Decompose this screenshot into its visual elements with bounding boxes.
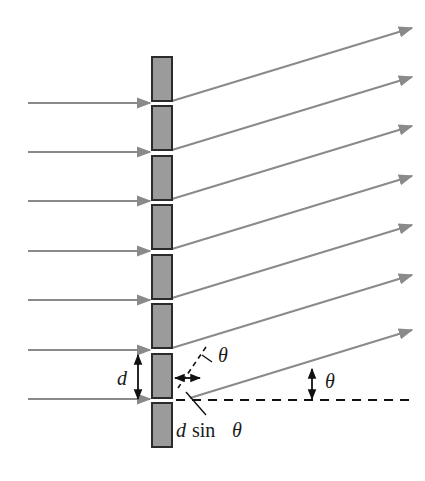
grating-barrier [152, 403, 172, 447]
grating-barrier [152, 106, 172, 150]
path-difference-label: d sin θ [176, 419, 242, 441]
path-difference-sin: sin [192, 419, 215, 441]
angle-at-slit-label: θ [218, 344, 228, 366]
slit-spacing-label: d [117, 367, 128, 389]
grating-barrier [152, 304, 172, 348]
diffraction-grating-canvas: d θ θ d sin θ [0, 0, 425, 481]
path-difference-d: d [176, 419, 187, 441]
grating-barrier [152, 354, 172, 398]
angle-at-baseline-label: θ [325, 370, 335, 392]
grating-barrier [152, 57, 172, 101]
path-difference-theta: θ [232, 419, 242, 441]
grating-barrier [152, 205, 172, 249]
grating-barrier [152, 156, 172, 200]
grating-barrier [152, 255, 172, 299]
diffraction-grating-figure: d θ θ d sin θ [0, 0, 425, 481]
